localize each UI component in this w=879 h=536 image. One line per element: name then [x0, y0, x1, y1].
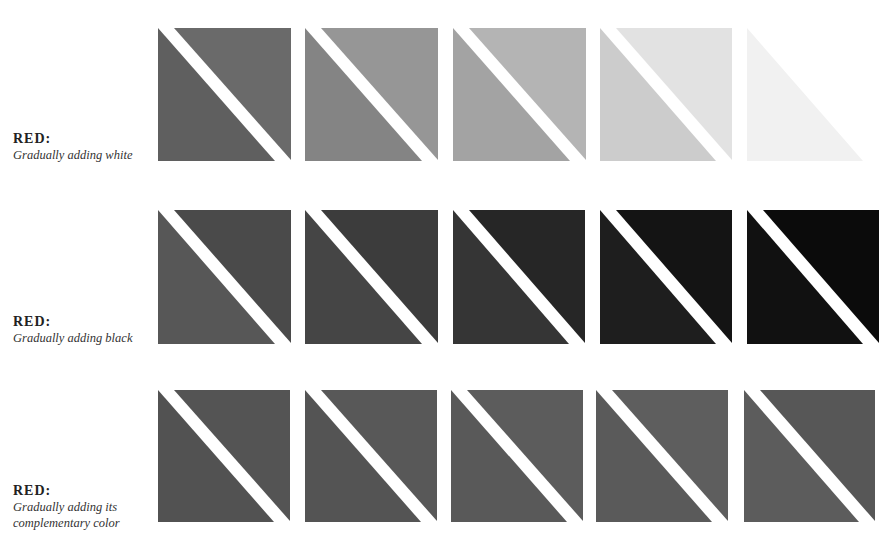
color-swatch: [158, 210, 291, 344]
color-swatch: [451, 390, 583, 522]
row-label-white: RED: Gradually adding white: [13, 130, 153, 163]
row-subtitle-line2: complementary color: [13, 515, 153, 531]
color-swatch: [305, 210, 438, 344]
color-swatch: [158, 28, 291, 161]
color-swatch: [305, 28, 438, 161]
color-swatch: [453, 28, 586, 161]
row-label-complementary: RED: Gradually adding its complementary …: [13, 482, 153, 531]
row-label-black: RED: Gradually adding black: [13, 313, 153, 346]
color-swatch: [305, 390, 437, 522]
color-swatch: [596, 390, 728, 522]
color-swatch: [158, 390, 290, 522]
row-title: RED:: [13, 482, 153, 499]
color-swatch: [600, 28, 732, 161]
color-swatch: [747, 28, 879, 161]
row-title: RED:: [13, 313, 153, 330]
color-swatch: [747, 210, 879, 344]
row-subtitle: Gradually adding white: [13, 147, 153, 163]
color-swatch: [600, 210, 732, 344]
row-subtitle-line1: Gradually adding its: [13, 499, 153, 515]
color-swatch: [453, 210, 585, 344]
row-subtitle: Gradually adding black: [13, 330, 153, 346]
color-swatch: [744, 390, 875, 522]
row-title: RED:: [13, 130, 153, 147]
